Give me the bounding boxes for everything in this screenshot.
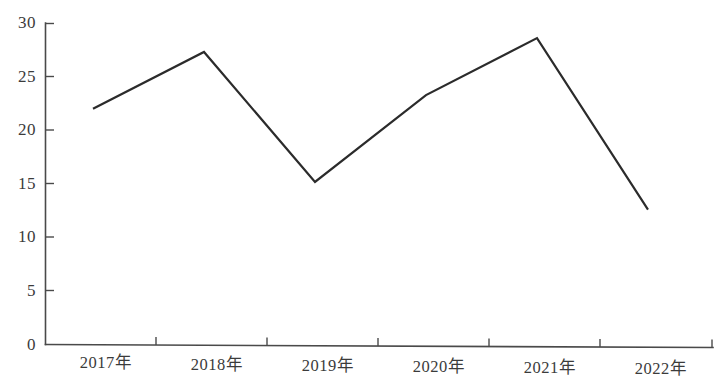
y-axis-ticks [46,24,55,291]
y-tick-label-0: 0 [4,336,36,353]
y-tick-label-25: 25 [4,68,36,85]
line-chart: 30 25 20 15 10 5 0 2017年 2018年 2019年 202… [0,0,722,392]
x-tick-label-2020: 2020年 [394,359,484,376]
x-axis-line [46,345,714,348]
y-tick-label-5: 5 [4,282,36,299]
y-tick-label-15: 15 [4,175,36,192]
y-tick-label-20: 20 [4,121,36,138]
chart-plot-area [0,0,722,392]
x-tick-label-2018: 2018年 [172,357,262,374]
y-tick-label-10: 10 [4,228,36,245]
x-tick-label-2017: 2017年 [61,355,151,372]
x-tick-label-2022: 2022年 [616,361,706,378]
x-tick-label-2019: 2019年 [283,358,373,375]
y-tick-label-30: 30 [4,14,36,31]
x-tick-label-2021: 2021年 [505,360,595,377]
data-series-line [93,38,648,210]
